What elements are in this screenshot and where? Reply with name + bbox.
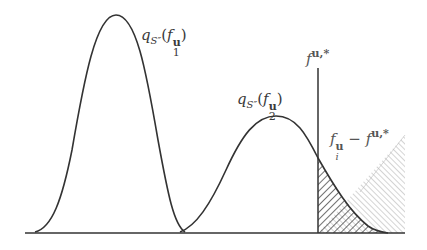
label-minus: −	[344, 130, 366, 148]
label-q: q	[141, 26, 151, 44]
threshold-label: fu,*	[306, 52, 329, 67]
label-index: 2	[269, 112, 277, 122]
label-index: i	[336, 152, 344, 161]
label-paren: )	[181, 26, 187, 44]
label-index: 1	[173, 48, 181, 58]
label-f: f	[306, 50, 312, 68]
label-paren: )	[277, 90, 283, 108]
label-superscript: u,*	[312, 47, 330, 60]
difference-label: fui − fu,*	[330, 132, 389, 161]
curve-1-label: qS″(fu1)	[141, 28, 186, 58]
label-subscript: S″	[151, 35, 162, 46]
label-q: q	[237, 90, 247, 108]
curve-2-label: qS″(fu2)	[237, 92, 282, 122]
diagram-canvas	[0, 0, 427, 250]
label-subscript: S″	[247, 99, 258, 110]
label-superscript: u,*	[371, 127, 389, 140]
